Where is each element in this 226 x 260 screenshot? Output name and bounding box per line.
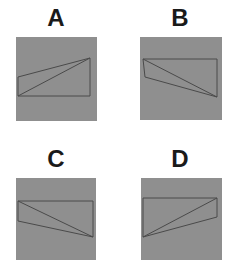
panel-a-square [16,37,97,121]
panel-d-label: D [160,147,200,171]
figure-canvas [0,0,226,260]
panel-b [140,37,222,120]
panel-a [16,37,97,121]
panel-b-label: B [160,6,200,30]
panel-d [141,178,222,260]
panel-a-label: A [36,6,76,30]
panel-c-label: C [36,147,76,171]
panel-c [16,178,96,260]
